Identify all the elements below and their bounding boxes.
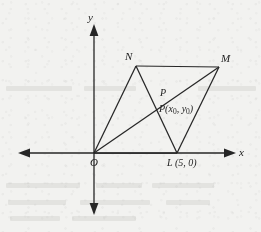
side-MN <box>136 66 219 67</box>
figure-page: y x O N M L (5, 0) P P(x0, y0) <box>0 0 261 232</box>
y-axis-bottom-arrowhead <box>90 203 99 215</box>
diagonal-NL <box>136 66 177 153</box>
x-axis-right-arrowhead <box>224 149 236 158</box>
geometry-figure <box>0 0 261 232</box>
x-axis-left-arrowhead <box>18 149 30 158</box>
side-LM <box>177 67 219 153</box>
y-axis-top-arrowhead <box>90 24 99 36</box>
side-NO <box>94 66 136 153</box>
diagonals-group <box>94 66 219 153</box>
axes-group <box>24 30 230 209</box>
